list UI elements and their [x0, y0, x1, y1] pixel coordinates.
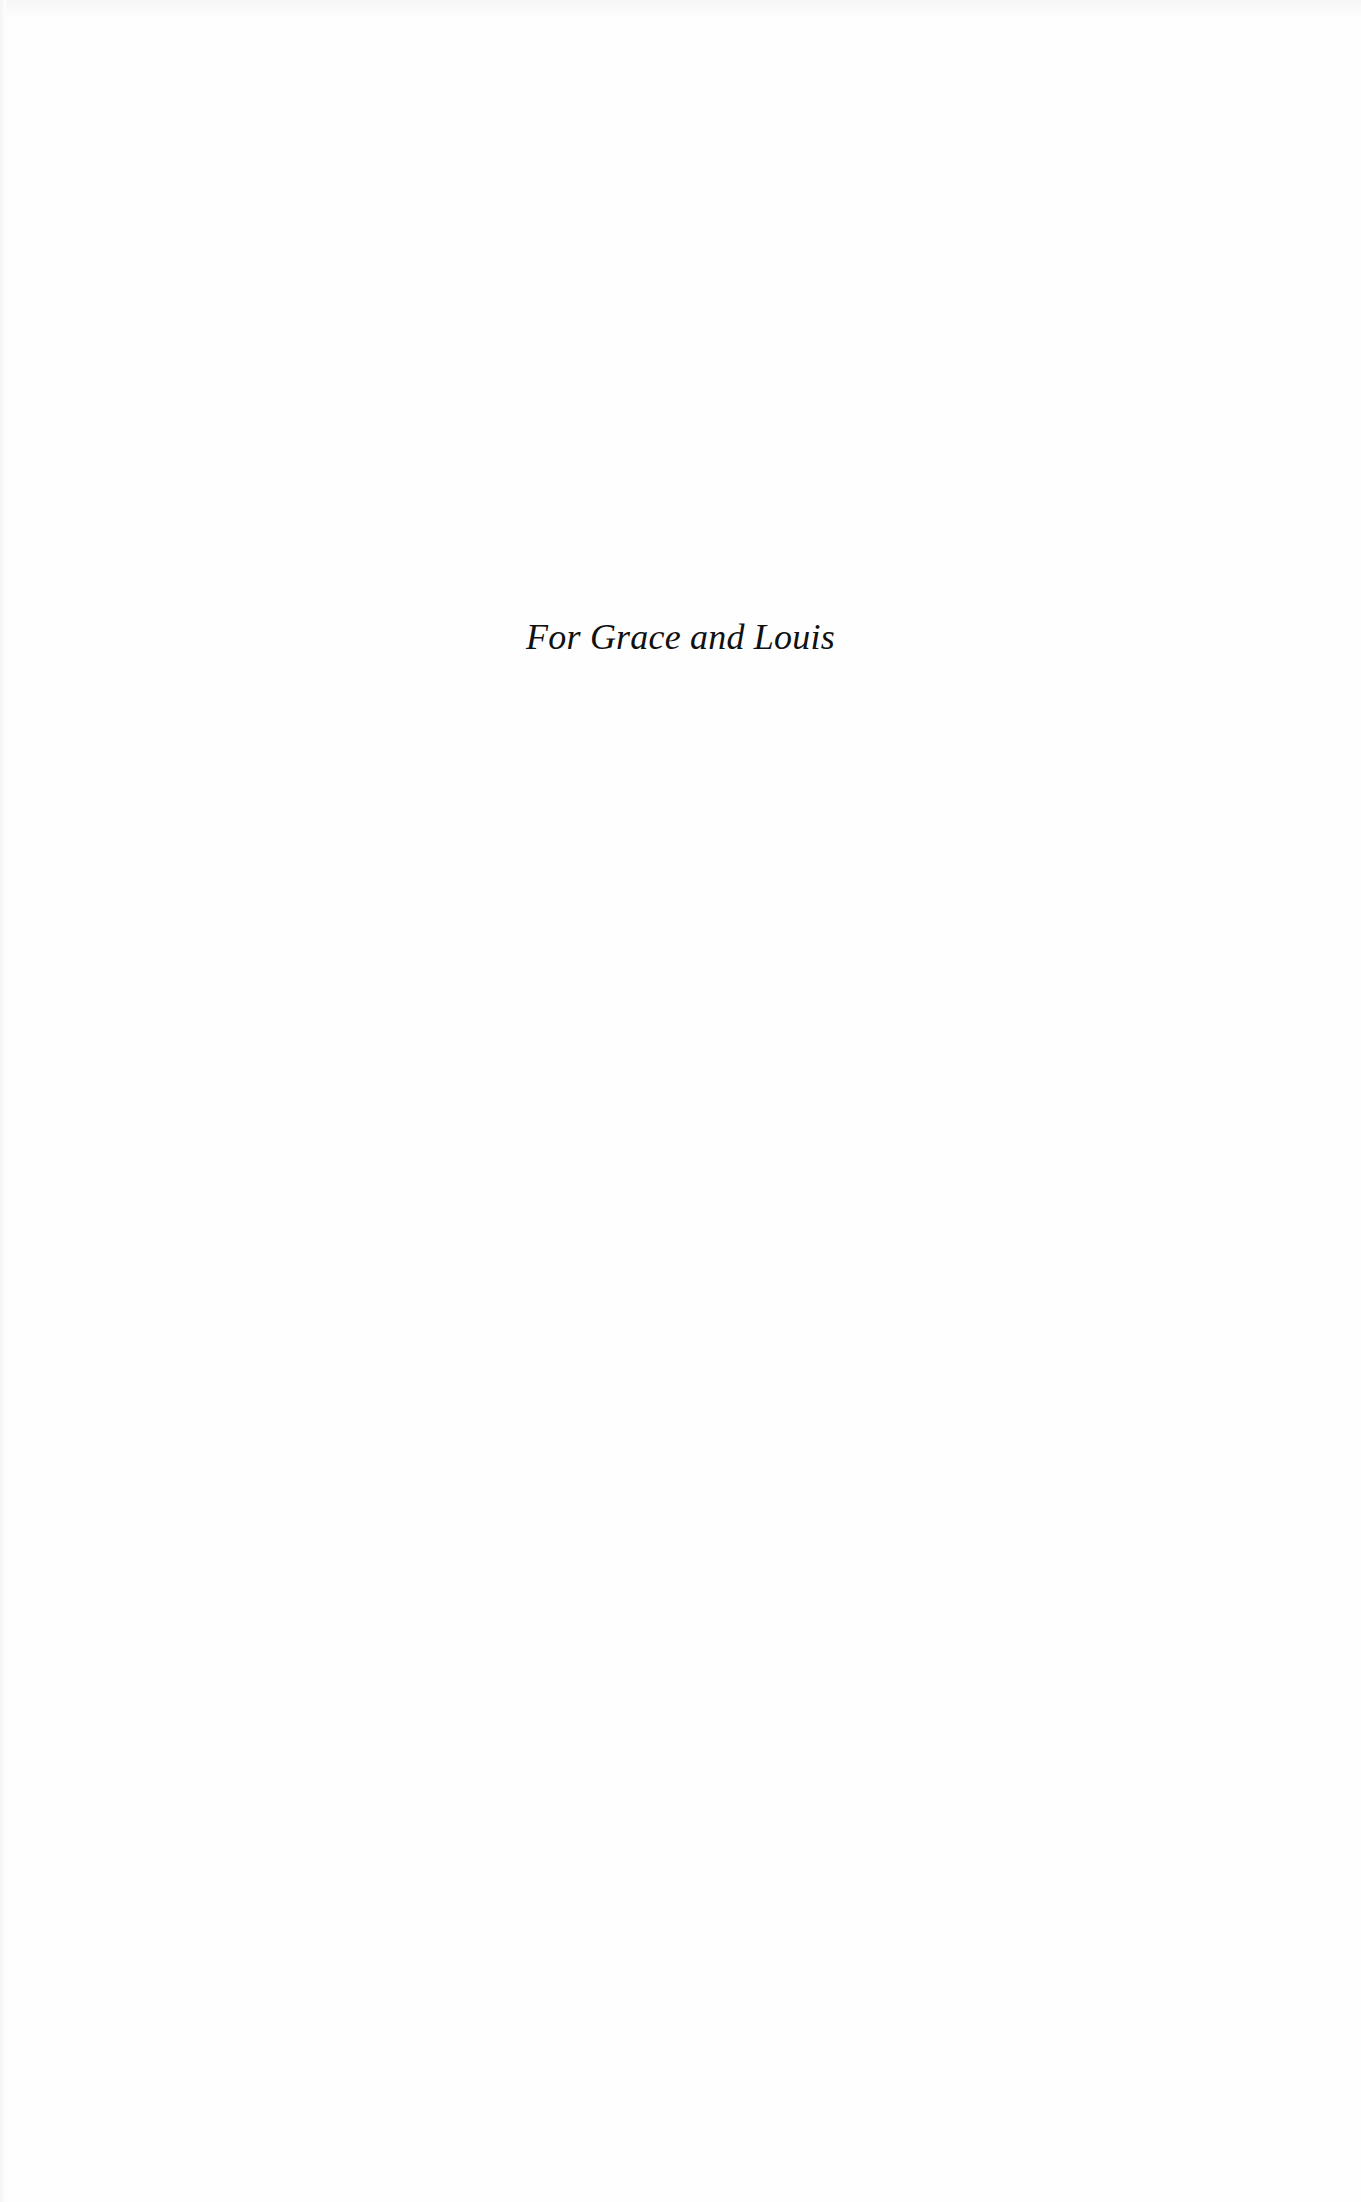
book-page: For Grace and Louis: [0, 0, 1361, 2202]
dedication-text: For Grace and Louis: [0, 612, 1361, 662]
scan-left-edge: [0, 0, 6, 2202]
scan-top-edge: [0, 0, 1361, 18]
